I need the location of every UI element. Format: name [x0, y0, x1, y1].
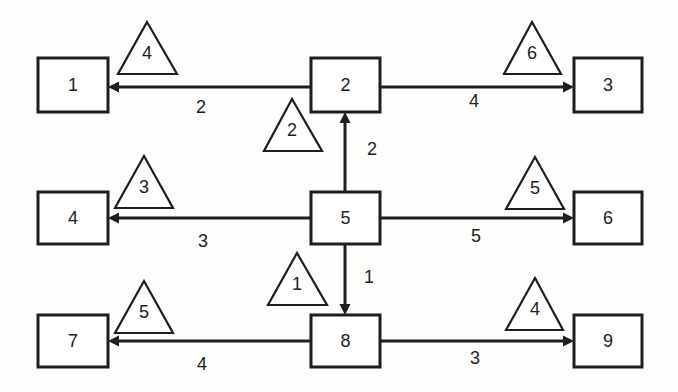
arrowhead-icon [340, 304, 351, 315]
edge-label: 2 [367, 139, 377, 159]
node-label: 6 [603, 208, 613, 228]
arrowhead-icon [108, 336, 119, 347]
arrowhead-icon [563, 213, 574, 224]
diagram-canvas: 24235143 123456789 46235154 [0, 0, 678, 392]
edge-label: 2 [196, 97, 206, 117]
node-7: 7 [38, 315, 108, 367]
edge-2-to-1: 2 [108, 82, 311, 118]
arrowhead-icon [563, 82, 574, 93]
node-2: 2 [311, 58, 380, 112]
node-8: 8 [311, 315, 380, 367]
triangle-label: 6 [527, 43, 537, 63]
triangle-label: 4 [142, 43, 152, 63]
node-9: 9 [574, 315, 642, 367]
edge-label: 4 [197, 354, 207, 374]
arrowhead-icon [340, 112, 351, 123]
edge-label: 3 [470, 348, 480, 368]
edge-8-to-9: 3 [380, 336, 574, 369]
triangle-label: 2 [287, 120, 297, 140]
triangle-label: 3 [139, 177, 149, 197]
triangle-marker-5: 5 [506, 157, 564, 209]
node-label: 4 [68, 208, 78, 228]
triangle-marker-2: 6 [504, 22, 561, 74]
triangle-marker-8: 4 [506, 278, 563, 330]
arrowhead-icon [108, 213, 119, 224]
triangle-label: 5 [530, 178, 540, 198]
node-label: 7 [68, 331, 78, 351]
node-1: 1 [38, 58, 108, 112]
node-label: 5 [340, 208, 350, 228]
triangle-label: 4 [530, 299, 540, 319]
edge-5-to-4: 3 [108, 213, 311, 252]
node-4: 4 [38, 192, 108, 244]
node-label: 2 [340, 75, 350, 95]
triangle-marker-6: 1 [268, 253, 327, 305]
edge-5-to-8: 1 [340, 244, 375, 315]
edge-label: 1 [364, 267, 374, 287]
edge-2-to-3: 4 [380, 82, 574, 112]
arrowhead-icon [108, 82, 119, 93]
node-6: 6 [574, 192, 642, 244]
edge-5-to-6: 5 [380, 213, 574, 247]
node-label: 8 [340, 331, 350, 351]
edge-label: 3 [198, 231, 208, 251]
node-3: 3 [574, 58, 642, 112]
node-label: 9 [603, 331, 613, 351]
triangle-label: 5 [139, 302, 149, 322]
edge-label: 5 [471, 226, 481, 246]
triangle-marker-1: 4 [118, 22, 177, 74]
edge-8-to-7: 4 [108, 336, 311, 375]
arrowhead-icon [563, 336, 574, 347]
network-diagram: 24235143 123456789 46235154 [0, 0, 678, 392]
node-label: 3 [603, 75, 613, 95]
edge-label: 4 [469, 91, 479, 111]
node-label: 1 [68, 75, 78, 95]
triangle-marker-7: 5 [115, 281, 173, 333]
edge-5-to-2: 2 [340, 112, 378, 192]
node-5: 5 [311, 192, 380, 244]
triangle-marker-4: 3 [115, 156, 173, 208]
triangle-label: 1 [292, 274, 302, 294]
